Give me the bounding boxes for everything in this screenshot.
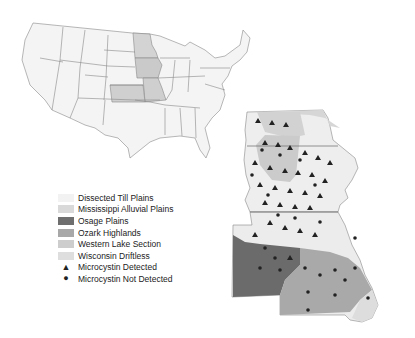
map-canvas — [0, 0, 415, 338]
legend-item-microcystin-not-detected: ●Microcystin Not Detected — [58, 273, 173, 285]
legend-label: Ozark Highlands — [78, 228, 141, 238]
map-legend: Dissected Till Plains Mississippi Alluvi… — [58, 192, 173, 285]
legend-swatch — [58, 252, 74, 260]
legend-label: Mississippi Alluvial Plains — [78, 204, 173, 214]
legend-item-osage-plains: Osage Plains — [58, 215, 173, 227]
us-overview-map — [22, 23, 250, 158]
legend-item-mississippi-alluvial-plains: Mississippi Alluvial Plains — [58, 204, 173, 216]
legend-label: Microcystin Not Detected — [78, 274, 172, 284]
legend-item-dissected-till-plains: Dissected Till Plains — [58, 192, 173, 204]
legend-swatch — [58, 240, 74, 248]
legend-label: Western Lake Section — [78, 239, 161, 249]
legend-label: Osage Plains — [78, 216, 129, 226]
legend-item-wisconsin-driftless: Wisconsin Driftless — [58, 250, 173, 262]
legend-label: Microcystin Detected — [78, 262, 157, 272]
legend-swatch — [58, 217, 74, 225]
legend-label: Wisconsin Driftless — [78, 251, 150, 261]
iowa-missouri-detail-map — [232, 110, 378, 322]
legend-swatch — [58, 194, 74, 202]
legend-swatch — [58, 205, 74, 213]
circle-marker-icon: ● — [58, 274, 74, 283]
legend-item-ozark-highlands: Ozark Highlands — [58, 227, 173, 239]
legend-item-microcystin-detected: ▲Microcystin Detected — [58, 262, 173, 274]
triangle-marker-icon: ▲ — [58, 263, 74, 272]
legend-swatch — [58, 229, 74, 237]
legend-item-western-lake-section: Western Lake Section — [58, 238, 173, 250]
legend-label: Dissected Till Plains — [78, 193, 154, 203]
